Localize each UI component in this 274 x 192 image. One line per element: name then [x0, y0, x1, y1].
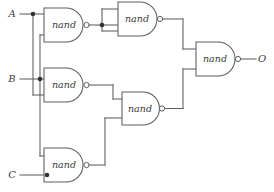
gate-g1-label: nand	[52, 19, 76, 30]
junction-dot-g1-out	[100, 23, 105, 28]
gate-g1: nand	[44, 8, 89, 42]
input-label-b: B	[7, 73, 15, 84]
gate-g4-inversion-bubble	[159, 106, 164, 111]
schematic-svg: nand nand nand	[0, 0, 274, 192]
gate-g5-inversion-bubble	[84, 162, 89, 167]
gate-g3-inversion-bubble	[84, 82, 89, 87]
input-label-a: A	[7, 8, 15, 19]
net-g4-wires	[165, 69, 196, 109]
gate-g5: nand	[44, 148, 89, 182]
net-g2-wires	[163, 19, 196, 49]
gate-g4-label: nand	[128, 103, 152, 114]
gate-g2: nand	[118, 2, 163, 36]
gate-g2-label: nand	[125, 13, 149, 24]
net-g3-wires	[89, 85, 122, 99]
net-g5-wires	[89, 118, 122, 165]
net-c-wires	[20, 168, 47, 175]
gate-g3: nand	[44, 68, 89, 102]
net-g1-wires	[89, 9, 118, 31]
gate-g6-inversion-bubble	[235, 56, 240, 61]
output-label-o: O	[258, 53, 266, 64]
gate-g3-label: nand	[52, 79, 76, 90]
logic-circuit-diagram: nand nand nand	[0, 0, 274, 192]
junction-dot-c	[45, 173, 50, 178]
gate-g6: nand	[196, 42, 241, 76]
junction-dot-b	[38, 77, 43, 82]
gate-g6-label: nand	[203, 53, 227, 64]
gate-g4: nand	[122, 92, 165, 125]
junction-dot-a	[31, 12, 36, 17]
input-label-c: C	[8, 169, 16, 180]
gate-g1-inversion-bubble	[84, 22, 89, 27]
net-b-wires	[20, 35, 44, 156]
gate-g2-inversion-bubble	[157, 16, 162, 21]
gate-g5-label: nand	[52, 159, 76, 170]
